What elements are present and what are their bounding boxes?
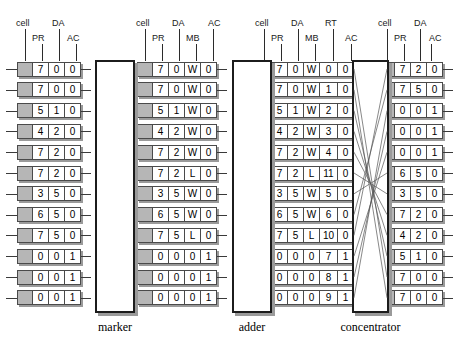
cell-indicator: [137, 270, 153, 285]
field-RT: 4: [319, 145, 338, 160]
record-row[interactable]: 0001: [137, 290, 216, 305]
cell-indicator: [17, 249, 33, 264]
column-2-header-ac: AC: [345, 33, 358, 43]
field-MB: W: [184, 186, 201, 201]
cell-indicator: [17, 145, 33, 160]
field-DA: 1: [410, 249, 427, 264]
record-row[interactable]: 001: [17, 270, 80, 285]
field-MB: W: [184, 62, 201, 77]
process-box-marker[interactable]: [95, 60, 135, 313]
record-row[interactable]: 42W0: [137, 124, 216, 139]
record-row[interactable]: 35W0: [137, 186, 216, 201]
record-row[interactable]: 720: [17, 166, 80, 181]
field-PR: 0: [152, 270, 169, 285]
field-PR: 7: [152, 145, 169, 160]
connector-line: [81, 235, 91, 236]
field-DA: 0: [287, 290, 304, 305]
record-row[interactable]: 650: [17, 207, 80, 222]
connector-line: [217, 235, 227, 236]
field-DA: 2: [168, 166, 185, 181]
cell-indicator: [17, 166, 33, 181]
record-row[interactable]: 420: [17, 124, 80, 139]
field-MB: L: [303, 166, 320, 181]
connector-line: [217, 173, 227, 174]
field-PR: 7: [394, 290, 411, 305]
cell-indicator: [137, 124, 153, 139]
record-row[interactable]: 72W0: [137, 145, 216, 160]
connector-line: [217, 111, 227, 112]
field-PR: 7: [32, 145, 49, 160]
column-1-header-pr: PR: [152, 33, 165, 43]
field-AC: 0: [64, 62, 81, 77]
record-row[interactable]: 70W0: [137, 62, 216, 77]
field-DA: 0: [48, 62, 65, 77]
record-row[interactable]: 72L0: [137, 166, 216, 181]
connector-line: [443, 215, 453, 216]
connector-line: [6, 256, 17, 257]
record-row[interactable]: 0001: [137, 249, 216, 264]
column-0-header-ac: AC: [67, 33, 80, 43]
field-PR: 3: [32, 186, 49, 201]
field-DA: 0: [168, 249, 185, 264]
cell-indicator: [17, 103, 33, 118]
field-PR: 0: [394, 124, 411, 139]
connector-line: [81, 256, 91, 257]
field-DA: 5: [410, 82, 427, 97]
cell-indicator: [137, 249, 153, 264]
record-row[interactable]: 0001: [137, 270, 216, 285]
record-row[interactable]: 001: [17, 249, 80, 264]
connector-line: [443, 131, 453, 132]
field-DA: 0: [48, 270, 65, 285]
record-row[interactable]: 001: [17, 290, 80, 305]
record-row[interactable]: 700: [17, 62, 80, 77]
connector-line: [443, 256, 453, 257]
record-row[interactable]: 750: [17, 228, 80, 243]
column-0-header-pr: PR: [32, 33, 45, 43]
connector-line: [217, 194, 227, 195]
field-PR: 0: [32, 290, 49, 305]
header-leader-line: [420, 29, 421, 61]
record-row[interactable]: 720: [17, 145, 80, 160]
field-AC: 0: [200, 82, 217, 97]
field-AC: 1: [64, 270, 81, 285]
connector-line: [81, 90, 91, 91]
field-DA: 0: [410, 290, 427, 305]
connector-line: [443, 194, 453, 195]
field-DA: 5: [168, 207, 185, 222]
record-row[interactable]: 51W0: [137, 103, 216, 118]
connector-line: [443, 298, 453, 299]
field-RT: 3: [319, 124, 338, 139]
record-row[interactable]: 65W0: [137, 207, 216, 222]
connector-line: [6, 111, 17, 112]
record-row[interactable]: 350: [17, 186, 80, 201]
field-AC: 0: [200, 103, 217, 118]
field-AC: 0: [200, 228, 217, 243]
record-row[interactable]: 70W0: [137, 82, 216, 97]
field-AC: 0: [426, 270, 443, 285]
field-DA: 2: [48, 124, 65, 139]
field-AC: 0: [200, 186, 217, 201]
field-DA: 2: [287, 124, 304, 139]
field-PR: 3: [152, 186, 169, 201]
record-row[interactable]: 510: [17, 103, 80, 118]
field-PR: 7: [394, 207, 411, 222]
cell-indicator: [17, 228, 33, 243]
record-row[interactable]: 700: [17, 82, 80, 97]
connector-line: [81, 111, 91, 112]
field-DA: 5: [48, 186, 65, 201]
record-row[interactable]: 75L0: [137, 228, 216, 243]
field-AC: 0: [426, 228, 443, 243]
connector-line: [217, 298, 227, 299]
field-MB: W: [184, 124, 201, 139]
field-AC: 0: [426, 207, 443, 222]
process-box-adder[interactable]: [232, 60, 272, 313]
field-AC: 1: [200, 270, 217, 285]
field-PR: 0: [152, 290, 169, 305]
field-AC: 1: [426, 145, 443, 160]
field-RT: 10: [319, 228, 338, 243]
header-leader-line: [42, 44, 43, 61]
column-0-header-da: DA: [52, 18, 65, 28]
connector-line: [6, 173, 17, 174]
field-DA: 0: [168, 270, 185, 285]
column-0-header-cell: cell: [16, 18, 30, 28]
